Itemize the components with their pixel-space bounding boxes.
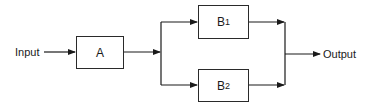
connection-lines — [0, 0, 372, 109]
block-a: A — [76, 36, 124, 69]
block-b2-subscript: 2 — [225, 81, 230, 91]
block-b1-label: B — [217, 15, 225, 29]
block-b1: B1 — [198, 5, 249, 39]
block-a-label: A — [96, 46, 104, 60]
block-b1-subscript: 1 — [225, 17, 230, 27]
input-label: Input — [15, 46, 39, 58]
block-b2: B2 — [198, 69, 249, 102]
output-label: Output — [323, 48, 356, 60]
block-b2-label: B — [217, 79, 225, 93]
